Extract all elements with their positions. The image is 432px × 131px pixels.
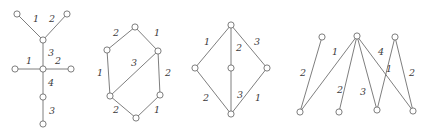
graph-edge [107, 50, 110, 96]
graph-vertex [155, 48, 161, 54]
edge-weight-label: 1 [255, 92, 261, 103]
edge-weight-label: 2 [202, 92, 209, 103]
graph-vertex [157, 92, 163, 98]
graph-edge [357, 36, 413, 111]
graph-vertex [14, 11, 20, 17]
graph-vertex [336, 109, 342, 115]
graph-vertex [107, 93, 113, 99]
graph-vertex [228, 111, 234, 117]
edge-weight-label: 2 [336, 84, 343, 95]
graph-vertex [40, 94, 46, 100]
edge-weight-label: 3 [49, 105, 55, 116]
graph-vertex [68, 66, 74, 72]
graph-vertex [297, 109, 303, 115]
graph-vertex [354, 33, 360, 39]
graph-3-group: 123231 [192, 22, 270, 117]
graph-vertex [410, 108, 416, 114]
edge-weight-label: 3 [360, 86, 366, 97]
graph-vertex [40, 66, 46, 72]
edge-weight-label: 1 [33, 13, 39, 24]
graph-vertex [104, 47, 110, 53]
graph-vertex [40, 37, 46, 43]
edge-weight-label: 2 [112, 104, 119, 115]
graph-edge [17, 14, 43, 40]
graph-vertex [228, 22, 234, 28]
edge-weight-label: 2 [54, 55, 61, 66]
edge-weight-label: 4 [377, 46, 384, 57]
graph-vertex [64, 11, 70, 17]
edge-weight-label: 1 [97, 67, 103, 78]
figure-container: 1231243 2113221 123231 2123412 [0, 0, 432, 131]
graph-edge [195, 68, 231, 114]
graph-vertex [133, 115, 139, 121]
graph-vertex [40, 121, 46, 127]
edge-weight-label: 2 [235, 42, 242, 53]
edge-weight-label: 3 [237, 89, 243, 100]
graph-edge [107, 27, 135, 50]
edge-weight-label: 1 [154, 104, 160, 115]
graphs-svg-canvas: 1231243 2113221 123231 2123412 [0, 0, 432, 131]
edge-weight-label: 2 [408, 67, 415, 78]
edge-weight-label: 3 [254, 36, 260, 47]
edge-weight-label: 1 [386, 63, 392, 74]
edge-weight-label: 1 [154, 27, 160, 38]
edge-weight-label: 1 [204, 36, 210, 47]
edge-weight-label: 2 [299, 67, 306, 78]
graph-2-group: 2113221 [97, 24, 171, 121]
edge-weight-label: 2 [112, 27, 119, 38]
graph-vertex [264, 65, 270, 71]
graph-edge [158, 51, 160, 95]
edge-weight-label: 2 [48, 13, 55, 24]
graph-vertex [192, 65, 198, 71]
graph-edge [357, 36, 377, 110]
graph-edge [195, 25, 231, 68]
graph-vertex [374, 107, 380, 113]
graph-vertex [12, 66, 18, 72]
graph-vertex [392, 34, 398, 40]
graph-vertex [228, 65, 234, 71]
graph-vertex [319, 34, 325, 40]
edge-weight-label: 2 [164, 67, 171, 78]
graph-1-group: 1231243 [12, 11, 74, 127]
edge-weight-label: 1 [26, 55, 32, 66]
edge-weight-label: 1 [332, 46, 338, 57]
edge-weight-label: 3 [48, 47, 54, 58]
edge-weight-label: 3 [131, 57, 137, 68]
graph-vertex [132, 24, 138, 30]
edge-weight-label: 4 [47, 77, 54, 88]
graph-4-group: 2123412 [297, 33, 416, 115]
